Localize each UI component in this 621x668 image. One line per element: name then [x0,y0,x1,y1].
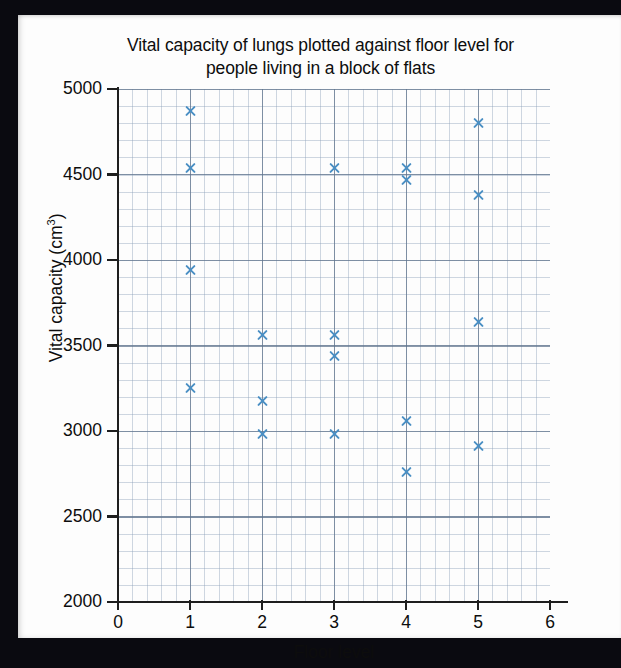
y-axis-tick [107,259,118,261]
y-axis-tick [107,173,118,175]
data-point-marker [400,161,413,174]
chart-title: Vital capacity of lungs plotted against … [48,34,593,80]
x-axis-tick [405,600,407,610]
data-point-marker [256,395,269,408]
x-axis-tick-label: 2 [242,612,282,633]
data-point-marker [184,105,197,118]
data-point-marker [256,329,269,342]
paper-sheet: Vital capacity of lungs plotted against … [18,15,621,638]
x-axis-tick-label: 1 [170,612,210,633]
plot-area [118,89,550,602]
data-point-marker [400,414,413,427]
y-axis-tick [107,344,118,346]
y-axis-tick-label: 2500 [22,506,102,527]
data-point-marker [184,264,197,277]
x-axis-title: Floor level [118,642,550,663]
x-axis-tick [189,600,191,610]
data-point-marker [184,161,197,174]
scatter-plot-figure: Vital capacity of lungs plotted against … [18,15,621,638]
y-axis-title-exponent: 3 [45,219,57,225]
y-axis-tick-label: 5000 [22,78,102,99]
x-axis-tick [477,600,479,610]
data-point-marker [328,427,341,440]
scanned-page-border: Vital capacity of lungs plotted against … [0,0,621,668]
data-point-marker [256,427,269,440]
data-point-marker [184,382,197,395]
y-axis-tick-label: 4500 [22,164,102,185]
data-point-marker [472,117,485,130]
y-axis-title-text: Vital capacity (cm [46,225,66,362]
y-axis-tick-label: 3000 [22,420,102,441]
data-point-marker [400,173,413,186]
x-axis-line [116,601,568,603]
chart-title-line-1: Vital capacity of lungs plotted against … [48,34,593,57]
x-axis-tick [333,600,335,610]
y-axis-title: Vital capacity (cm3) [45,188,67,388]
y-axis-tick-label: 2000 [22,591,102,612]
x-axis-tick [549,600,551,610]
data-point-marker [328,329,341,342]
x-axis-tick-label: 0 [98,612,138,633]
y-axis-tick [107,430,118,432]
x-axis-tick-label: 5 [458,612,498,633]
data-point-marker [472,315,485,328]
chart-title-line-2: people living in a block of flats [48,57,593,80]
x-axis-tick-label: 3 [314,612,354,633]
x-axis-tick-label: 4 [386,612,426,633]
major-gridlines [118,89,550,602]
y-axis-tick [107,515,118,517]
x-axis-tick-label: 6 [530,612,570,633]
y-axis-tick [107,88,118,90]
x-axis-tick [117,600,119,610]
data-point-marker [472,440,485,453]
data-point-marker [328,161,341,174]
data-point-marker [328,349,341,362]
data-point-marker [472,189,485,202]
x-axis-tick [261,600,263,610]
y-axis-title-paren: ) [46,214,66,220]
data-point-marker [400,466,413,479]
